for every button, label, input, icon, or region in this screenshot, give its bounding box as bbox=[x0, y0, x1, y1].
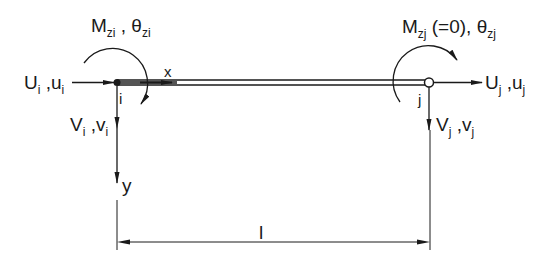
shear-i-label: Vi ,vi bbox=[70, 115, 108, 138]
node-j-label: j bbox=[418, 92, 421, 107]
dimension-arrow-right bbox=[417, 240, 430, 245]
axial-i-label: Ui ,ui bbox=[24, 73, 64, 96]
moment-j-arc bbox=[393, 46, 457, 102]
node-i-label: i bbox=[119, 91, 122, 106]
moment-j-label: Mzj (=0), θzj bbox=[402, 17, 496, 40]
length-label: l bbox=[259, 223, 263, 242]
node-i-rigid bbox=[114, 79, 121, 86]
dimension-arrow-left bbox=[117, 240, 130, 245]
y-axis-label: y bbox=[122, 176, 132, 195]
axial-j-label: Uj ,uj bbox=[485, 73, 525, 96]
moment-i-label: Mzi , θzi bbox=[91, 16, 151, 39]
shear-j-label: Vj ,vj bbox=[436, 115, 474, 138]
moment-i-arc bbox=[84, 48, 148, 104]
node-j-hinge bbox=[425, 78, 434, 87]
beam-element-diagram: Mzi , θzi Mzj (=0), θzj Ui ,ui Uj ,uj Vi… bbox=[0, 0, 557, 263]
x-axis-label: x bbox=[164, 64, 172, 79]
